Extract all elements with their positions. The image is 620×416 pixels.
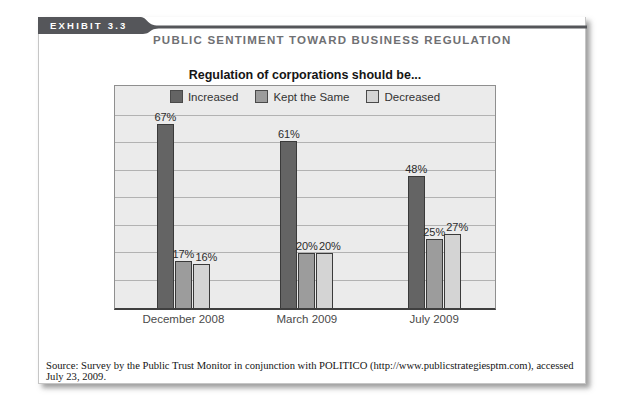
bar bbox=[193, 264, 210, 308]
bar-group: 61%20%20% bbox=[280, 86, 333, 308]
bar bbox=[444, 234, 461, 308]
bar-group: 48%25%27% bbox=[408, 86, 461, 308]
x-axis-labels: December 2008March 2009July 2009 bbox=[114, 313, 496, 329]
bar-value-label: 16% bbox=[195, 251, 217, 263]
source-note: Source: Survey by the Public Trust Monit… bbox=[46, 360, 584, 382]
bar bbox=[280, 141, 297, 308]
x-axis-label: December 2008 bbox=[142, 313, 224, 325]
bar-value-label: 20% bbox=[319, 240, 341, 252]
bar bbox=[298, 253, 315, 308]
exhibit-title: PUBLIC SENTIMENT TOWARD BUSINESS REGULAT… bbox=[153, 34, 512, 46]
bar-value-label: 48% bbox=[405, 163, 427, 175]
bar-value-label: 61% bbox=[278, 128, 300, 140]
bar-group: 67%17%16% bbox=[157, 86, 210, 308]
bar-value-label: 25% bbox=[423, 226, 445, 238]
chart-title: Regulation of corporations should be... bbox=[115, 68, 495, 82]
bar bbox=[426, 239, 443, 308]
bar-value-label: 67% bbox=[154, 111, 176, 123]
legend-swatch-icon bbox=[366, 90, 379, 103]
plot-area: IncreasedKept the SameDecreased67%17%16%… bbox=[114, 85, 496, 310]
bar-value-label: 27% bbox=[446, 221, 468, 233]
legend-swatch-icon bbox=[255, 90, 268, 103]
bar bbox=[175, 261, 192, 308]
x-axis-label: March 2009 bbox=[277, 313, 338, 325]
exhibit-tab-label: EXHIBIT 3.3 bbox=[50, 20, 128, 31]
bar bbox=[316, 253, 333, 308]
exhibit-card: EXHIBIT 3.3 PUBLIC SENTIMENT TOWARD BUSI… bbox=[38, 17, 586, 384]
bar-value-label: 17% bbox=[172, 248, 194, 260]
bar-value-label: 20% bbox=[296, 240, 318, 252]
x-axis-label: July 2009 bbox=[410, 313, 459, 325]
bar bbox=[157, 124, 174, 308]
page: EXHIBIT 3.3 PUBLIC SENTIMENT TOWARD BUSI… bbox=[0, 0, 620, 416]
bar bbox=[408, 176, 425, 308]
